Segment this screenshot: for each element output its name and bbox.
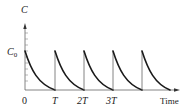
x-tick-label-0: 0 xyxy=(22,95,27,106)
y-axis-arrow-icon xyxy=(23,23,26,29)
x-tick-label-T: T xyxy=(52,95,59,106)
concentration-curve xyxy=(25,51,170,90)
x-tick-label-3T: 3T xyxy=(105,95,118,106)
x-tick-label-2T: 2T xyxy=(77,95,89,106)
x-axis-label: Time xyxy=(160,96,179,106)
chart: C C0 0 T 2T 3T Time xyxy=(0,0,194,108)
x-axis-arrow-icon xyxy=(174,88,180,91)
y-axis-label: C xyxy=(21,4,28,15)
peak-label: C0 xyxy=(7,46,18,59)
x-axis xyxy=(25,88,180,91)
